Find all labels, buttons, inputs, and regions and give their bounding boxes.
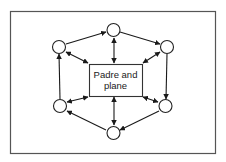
node-top-left <box>53 41 66 54</box>
edge-bottomleft-to-topleft <box>59 54 60 99</box>
center-label-line1: Padre and <box>94 69 138 80</box>
edge-bottomright-to-bottom <box>120 111 159 130</box>
center-label: Padre and plane <box>89 64 142 96</box>
center-label-line2: plane <box>104 80 127 91</box>
node-bottom-left <box>54 100 67 113</box>
spoke-bottom-right <box>143 97 158 102</box>
spoke-top-right <box>143 52 160 63</box>
node-bottom <box>107 127 120 140</box>
edge-bottom-to-bottomleft <box>67 111 106 130</box>
spoke-top-left <box>66 52 88 63</box>
edge-topleft-to-top <box>66 32 106 44</box>
node-top-right <box>161 41 174 54</box>
node-bottom-right <box>159 100 172 113</box>
edge-topright-to-bottomright <box>166 54 167 99</box>
edge-top-to-topright <box>120 32 160 44</box>
node-top <box>107 24 120 37</box>
spoke-bottom-left <box>67 97 88 102</box>
